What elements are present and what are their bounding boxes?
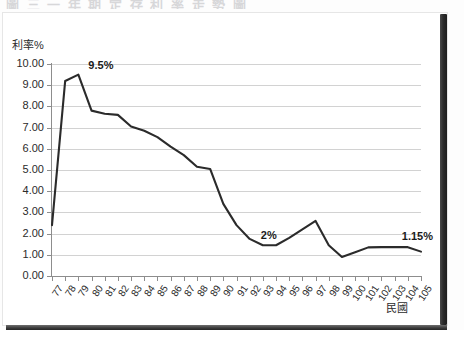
x-tick-mark (118, 277, 119, 281)
x-tick-mark (197, 277, 198, 281)
x-tick-mark (250, 277, 251, 281)
scanned-page: 圖 三 一 年 期 定 存 利 率 走 勢 圖 利率% 民國 0.001.002… (0, 0, 464, 346)
data-series-line (52, 64, 421, 276)
data-annotation: 9.5% (88, 59, 113, 71)
x-tick-mark (52, 277, 53, 281)
y-tick-label: 0.00 (0, 269, 44, 281)
x-tick-mark (223, 277, 224, 281)
x-tick-mark (355, 277, 356, 281)
x-tick-mark (263, 277, 264, 281)
y-tick-label: 1.00 (0, 248, 44, 260)
x-tick-mark (184, 277, 185, 281)
x-tick-mark (302, 277, 303, 281)
y-tick-label: 8.00 (0, 99, 44, 111)
y-tick-label: 4.00 (0, 184, 44, 196)
x-tick-mark (131, 277, 132, 281)
x-tick-mark (381, 277, 382, 281)
x-tick-mark (105, 277, 106, 281)
x-tick-mark (144, 277, 145, 281)
x-tick-mark (395, 277, 396, 281)
x-tick-mark (210, 277, 211, 281)
data-annotation: 1.15% (402, 230, 433, 242)
y-tick-label: 6.00 (0, 142, 44, 154)
page-title-strip: 圖 三 一 年 期 定 存 利 率 走 勢 圖 (0, 0, 464, 9)
y-tick-label: 2.00 (0, 227, 44, 239)
x-tick-mark (276, 277, 277, 281)
x-tick-mark (78, 277, 79, 281)
x-tick-label: 90 (221, 283, 236, 298)
x-tick-mark (65, 277, 66, 281)
x-tick-mark (368, 277, 369, 281)
scan-shadow-outer (0, 330, 464, 346)
y-tick-label: 5.00 (0, 163, 44, 175)
interest-rate-line-chart: 利率% 民國 0.001.002.003.004.005.006.007.008… (0, 12, 446, 326)
y-tick-label: 10.00 (0, 57, 44, 69)
y-tick-label: 9.00 (0, 78, 44, 90)
x-tick-mark (92, 277, 93, 281)
x-tick-mark (342, 277, 343, 281)
x-tick-mark (289, 277, 290, 281)
x-tick-mark (408, 277, 409, 281)
x-tick-mark (421, 277, 422, 281)
x-tick-mark (237, 277, 238, 281)
x-tick-mark (171, 277, 172, 281)
y-tick-label: 3.00 (0, 205, 44, 217)
x-tick-mark (316, 277, 317, 281)
data-annotation: 2% (261, 229, 277, 241)
x-tick-mark (157, 277, 158, 281)
y-tick-label: 7.00 (0, 121, 44, 133)
x-tick-mark (329, 277, 330, 281)
y-axis-title: 利率% (12, 36, 44, 52)
